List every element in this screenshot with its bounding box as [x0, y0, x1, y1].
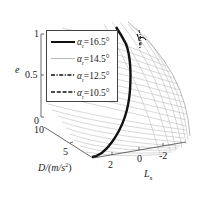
legend-entry-10-5: αr=10.5° [50, 87, 118, 99]
d-tick-10: 10 [34, 125, 44, 135]
d-axis-label-end: ) [68, 162, 71, 173]
d-axis-label: D/(m/s2) [38, 160, 72, 173]
z-tick-05: 0.5 [25, 70, 38, 80]
legend-label: αr=14.5° [77, 53, 110, 69]
legend-swatch-solid-thick [51, 41, 75, 43]
legend-label: αr=16.5° [77, 36, 110, 52]
lx-axis-label: Lx [144, 168, 153, 184]
lx-axis-label-sub: x [150, 175, 153, 181]
z-tick-1: 1 [34, 29, 39, 39]
lx-tick-0: 0 [137, 154, 142, 164]
legend-entry-14-5: αr=14.5° [50, 53, 118, 65]
legend: αr=16.5° αr=14.5° αr=12.5° αr=10.5° [46, 30, 118, 102]
lx-tick-2: 2 [108, 160, 113, 170]
legend-entry-12-5: αr=12.5° [50, 70, 118, 82]
legend-entry-16-5: αr=16.5° [50, 36, 118, 48]
legend-swatch-dashed [51, 90, 75, 94]
legend-label: αr=10.5° [77, 87, 110, 103]
d-axis-label-main: D/(m/s [38, 162, 65, 173]
lx-tick-neg2: -2 [159, 151, 167, 161]
d-tick-5: 5 [63, 147, 68, 157]
legend-swatch-solid-thin [51, 58, 75, 59]
z-axis-label: e [15, 64, 19, 75]
legend-label: αr=12.5° [77, 70, 110, 86]
legend-swatch-dash-dot [51, 73, 75, 77]
